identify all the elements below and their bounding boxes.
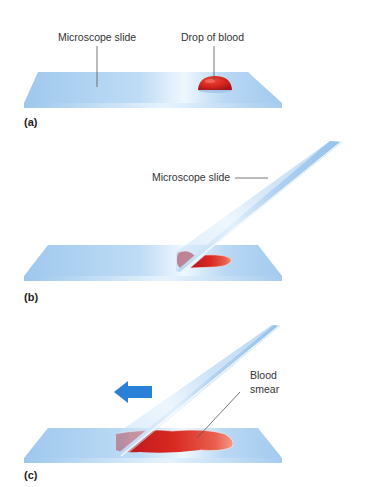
left-arrow-icon bbox=[114, 381, 152, 403]
panel-a: Microscope slide Drop of blood (a) bbox=[24, 31, 282, 128]
panel-label-b: (b) bbox=[24, 291, 38, 303]
panel-c: Blood smear (c) bbox=[24, 325, 282, 481]
blood-smear-diagram: Microscope slide Drop of blood (a) Micro… bbox=[0, 0, 366, 487]
panel-label-c: (c) bbox=[24, 469, 38, 481]
microscope-slide bbox=[24, 72, 282, 108]
panel-label-a: (a) bbox=[24, 116, 38, 128]
label-microscope-slide: Microscope slide bbox=[58, 31, 136, 43]
label-smear: smear bbox=[250, 383, 280, 395]
label-drop-of-blood: Drop of blood bbox=[181, 31, 244, 43]
microscope-slide-base bbox=[24, 245, 282, 281]
label-blood: Blood bbox=[250, 369, 277, 381]
label-microscope-slide-b: Microscope slide bbox=[152, 171, 230, 183]
panel-b: Microscope slide (b) bbox=[24, 141, 342, 303]
